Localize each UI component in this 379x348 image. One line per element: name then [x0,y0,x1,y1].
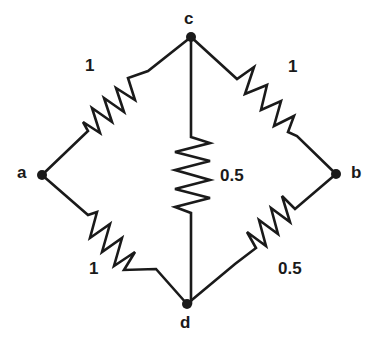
node-label-c: c [184,10,193,27]
resistor-a-d-value: 1 [89,260,98,277]
resistor-b-d [187,174,336,304]
resistor-b-d-value: 0.5 [278,260,302,277]
circuit-diagram [0,0,379,348]
resistor-c-d-value: 0.5 [220,167,244,184]
resistor-c-d [175,37,210,304]
resistor-c-b [191,37,336,174]
node-c-dot [186,32,196,42]
node-a-dot [37,170,47,180]
node-b-dot [331,169,341,179]
node-label-a: a [17,164,26,181]
node-label-d: d [180,314,190,331]
node-label-b: b [351,164,361,181]
resistor-a-c-value: 1 [85,57,94,74]
resistor-c-b-value: 1 [288,58,297,75]
resistor-a-d [42,175,187,304]
node-d-dot [182,299,192,309]
resistor-a-c [42,37,191,175]
